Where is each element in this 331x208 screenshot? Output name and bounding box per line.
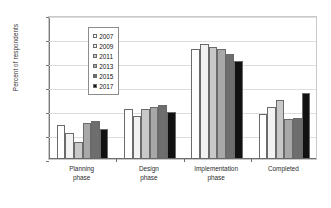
x-tick-mark <box>251 159 252 162</box>
bar-group <box>116 17 183 159</box>
x-tick-mark <box>184 159 185 162</box>
bar <box>209 47 218 159</box>
bar <box>124 109 133 159</box>
legend: 200720092011201320152017 <box>88 27 119 95</box>
legend-item[interactable]: 2013 <box>93 61 113 71</box>
legend-item[interactable]: 2009 <box>93 41 113 51</box>
legend-swatch-icon <box>93 64 97 68</box>
bar <box>259 114 268 159</box>
legend-swatch-icon <box>93 44 97 48</box>
x-axis-label: Implementation phase <box>183 165 250 182</box>
bar <box>91 121 100 159</box>
x-tick-mark <box>116 159 117 162</box>
legend-item[interactable]: 2017 <box>93 81 113 91</box>
legend-item-label: 2009 <box>99 43 113 50</box>
legend-swatch-icon <box>93 54 97 58</box>
bar <box>150 107 159 159</box>
legend-item[interactable]: 2015 <box>93 71 113 81</box>
bar <box>302 93 311 159</box>
legend-swatch-icon <box>93 34 97 38</box>
legend-item-label: 2017 <box>99 83 113 90</box>
x-axis-label: Design phase <box>115 165 182 182</box>
y-tick-mark <box>46 161 49 162</box>
bar <box>293 118 302 159</box>
legend-item-label: 2007 <box>99 33 113 40</box>
bar <box>267 107 276 159</box>
legend-item-label: 2013 <box>99 63 113 70</box>
bar <box>74 142 83 159</box>
legend-item-label: 2011 <box>99 53 113 60</box>
bar <box>141 109 150 159</box>
legend-item[interactable]: 2007 <box>93 31 113 41</box>
x-axis-label: Planning phase <box>48 165 115 182</box>
bar-group <box>184 17 251 159</box>
bar <box>167 112 176 159</box>
bar <box>100 129 109 159</box>
bar <box>217 49 226 159</box>
bar <box>226 54 235 159</box>
bar <box>65 133 74 159</box>
bar <box>83 123 92 159</box>
bar <box>158 105 167 159</box>
y-axis-title: Percent of respondents <box>12 3 19 113</box>
bar <box>133 116 142 159</box>
bar <box>200 44 209 159</box>
bar-group <box>251 17 318 159</box>
bar <box>284 119 293 159</box>
legend-item-label: 2015 <box>99 73 113 80</box>
legend-swatch-icon <box>93 84 97 88</box>
legend-swatch-icon <box>93 74 97 78</box>
bar <box>191 49 200 159</box>
legend-item[interactable]: 2011 <box>93 51 113 61</box>
x-axis-label: Completed <box>250 165 317 174</box>
bar <box>276 100 285 159</box>
bar-chart: Percent of respondents 0%10%20%30%40%50%… <box>0 0 331 208</box>
bar <box>57 125 66 159</box>
bar <box>234 61 243 159</box>
